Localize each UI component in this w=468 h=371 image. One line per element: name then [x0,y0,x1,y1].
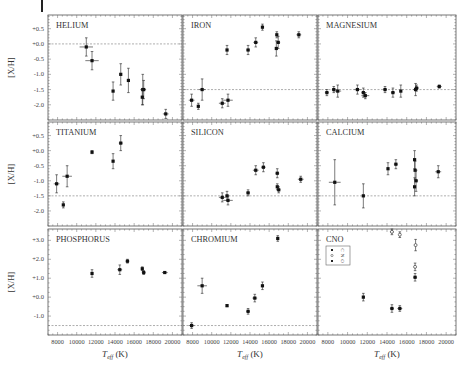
panel-titanium: +0.5+0.0-0.5-1.0-1.5-2.0TITANIUM [32,122,182,226]
legend-label: N [340,254,345,258]
x-tick-label: 16000 [399,338,415,345]
x-tick-label: 8000 [186,338,199,345]
x-tick-label: 8000 [322,338,335,345]
x-tick-label: 14000 [107,338,123,345]
y-tick-label: +3.0 [32,236,44,243]
x-tick-label: 10000 [340,338,356,345]
cno-legend: CNO [326,246,350,265]
x-axis-label: Teff (K) [374,349,400,360]
x-tick-label: 16000 [126,338,142,345]
y-tick-label: +0.0 [32,293,44,300]
y-axis-label: [X/H] [6,57,16,77]
y-tick-label: +0.5 [32,25,44,32]
x-tick-label: 18000 [145,338,161,345]
panel-frame [48,122,182,226]
panel-chromium: 8000100001200014000160001800020000CHROMI… [183,229,317,345]
y-tick-label: +0.0 [32,147,44,154]
panel-iron: IRON [183,15,317,120]
panel-frame [318,122,456,226]
data-point [126,259,130,263]
panel-magnesium: MAGNESIUM [318,15,456,120]
figure-grid: +0.5+0.0-0.5-1.0-1.5-2.0HELIUMIRONMAGNES… [0,0,468,371]
panel-title: CHROMIUM [191,235,238,244]
y-tick-label: -1.5 [34,192,44,199]
panel-title: SILICON [191,128,224,137]
panel-frame [183,15,317,120]
panel-calcium: CALCIUM [318,122,456,226]
y-tick-label: -1.0 [34,70,44,77]
x-axis-label: Teff (K) [102,349,128,360]
panel-helium: +0.5+0.0-0.5-1.0-1.5-2.0HELIUM [32,15,182,120]
y-tick-label: +0.0 [32,40,44,47]
panel-frame [318,15,456,120]
y-tick-label: +1.0 [32,274,44,281]
panel-silicon: SILICON [183,122,317,226]
x-tick-label: 10000 [69,338,85,345]
x-tick-label: 8000 [51,338,64,345]
x-tick-label: 12000 [359,338,375,345]
y-tick-label: -2.0 [34,101,44,108]
x-axis-label: Teff (K) [237,349,263,360]
x-tick-label: 16000 [261,338,277,345]
y-tick-label: -1.0 [34,177,44,184]
y-tick-label: +0.5 [32,132,44,139]
x-tick-label: 14000 [379,338,395,345]
panel-title: MAGNESIUM [326,21,378,30]
y-tick-label: -1.0 [34,312,44,319]
y-tick-label: -1.5 [34,86,44,93]
x-tick-label: 20000 [438,338,454,345]
panel-title: CNO [326,235,344,244]
panel-frame [48,229,182,335]
data-point [90,151,93,154]
x-tick-label: 14000 [242,338,258,345]
x-tick-label: 20000 [300,338,316,345]
panel-title: TITANIUM [56,128,97,137]
panel-frame [318,229,456,335]
x-tick-label: 18000 [280,338,296,345]
panel-title: IRON [191,21,211,30]
y-tick-label: -2.0 [34,207,44,214]
data-point [141,267,144,271]
panel-title: HELIUM [56,21,89,30]
y-tick-label: -0.5 [34,55,44,62]
x-tick-label: 10000 [204,338,220,345]
y-axis-label: [X/H] [6,164,16,184]
panel-title: CALCIUM [326,128,365,137]
panel-title: PHOSPHORUS [56,235,110,244]
data-point [142,271,146,275]
y-axis-label: [X/H] [6,272,16,292]
panel-frame [48,15,182,120]
panel-frame [183,122,317,226]
y-tick-label: +2.0 [32,255,44,262]
x-tick-label: 20000 [165,338,181,345]
x-tick-label: 18000 [419,338,435,345]
panel-frame [183,229,317,335]
panel-phosphorus: +3.0+2.0+1.0+0.0-1.080001000012000140001… [32,229,182,345]
x-tick-label: 12000 [88,338,104,345]
panel-cno: 8000100001200014000160001800020000CNOCNO [318,229,456,345]
y-tick-label: -0.5 [34,162,44,169]
x-tick-label: 12000 [223,338,239,345]
legend-label: O [340,259,345,263]
data-point [225,304,228,307]
